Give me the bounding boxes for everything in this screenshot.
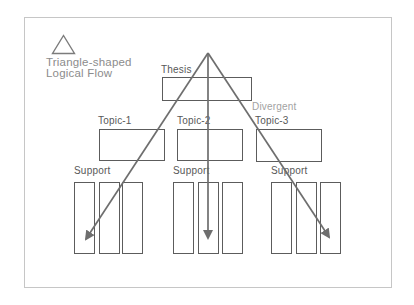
divergent-annotation: Divergent bbox=[252, 102, 297, 112]
support-column bbox=[271, 182, 292, 254]
support-column bbox=[74, 182, 95, 254]
support-column bbox=[320, 182, 341, 254]
topic-1-box bbox=[99, 129, 165, 161]
support-group-3-label: Support bbox=[271, 166, 307, 176]
topic-2-label: Topic-2 bbox=[177, 116, 211, 126]
support-group-2-label: Support bbox=[173, 166, 209, 176]
thesis-box bbox=[162, 77, 252, 101]
diagram-title: Triangle-shaped Logical Flow bbox=[46, 57, 132, 79]
topic-1-label: Topic-1 bbox=[98, 116, 132, 126]
support-column bbox=[173, 182, 194, 254]
support-column bbox=[296, 182, 317, 254]
topic-3-box bbox=[256, 129, 322, 162]
topic-2-box bbox=[177, 129, 243, 161]
support-group-1-label: Support bbox=[74, 166, 110, 176]
diagram-canvas: Triangle-shaped Logical Flow Thesis Dive… bbox=[0, 0, 414, 305]
thesis-label: Thesis bbox=[161, 65, 192, 75]
support-column bbox=[222, 182, 243, 254]
topic-3-label: Topic-3 bbox=[255, 116, 289, 126]
support-column bbox=[122, 182, 143, 254]
triangle-icon bbox=[51, 34, 76, 55]
support-column bbox=[99, 182, 120, 254]
support-column bbox=[198, 182, 219, 254]
diagram-title-line2: Logical Flow bbox=[46, 68, 132, 79]
